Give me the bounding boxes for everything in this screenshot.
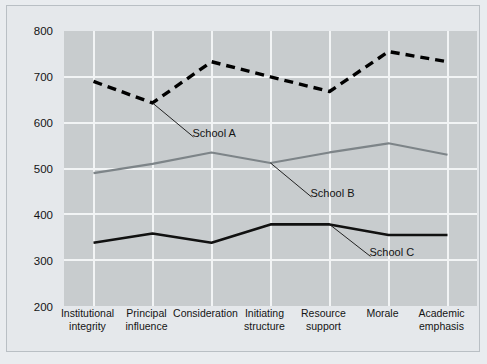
y-tick-label: 300 xyxy=(7,255,53,267)
annotation-leader-line xyxy=(153,103,194,137)
y-tick-label: 600 xyxy=(7,117,53,129)
y-tick-label: 200 xyxy=(7,301,53,313)
x-tick-label-line: emphasis xyxy=(403,320,481,333)
annotation-leader-lines xyxy=(64,31,477,306)
y-tick-label: 700 xyxy=(7,71,53,83)
y-tick-label: 800 xyxy=(7,25,53,37)
chart-frame: 800 700 600 500 400 300 200 Institutiona… xyxy=(6,5,480,352)
x-tick-label-line: Academic xyxy=(403,307,481,320)
y-tick-label: 500 xyxy=(7,163,53,175)
series-label-school-a: School A xyxy=(193,127,236,139)
chart-figure: 800 700 600 500 400 300 200 Institutiona… xyxy=(0,0,487,364)
plot-area xyxy=(64,31,477,306)
annotation-leader-line xyxy=(271,163,312,197)
series-label-school-b: School B xyxy=(311,187,355,199)
x-tick-label-line: support xyxy=(285,320,363,333)
y-tick-label: 400 xyxy=(7,209,53,221)
x-tick-label-line: influence xyxy=(108,320,186,333)
x-tick-label: Academicemphasis xyxy=(403,307,481,332)
series-label-school-c: School C xyxy=(370,246,415,258)
annotation-leader-line xyxy=(330,224,371,256)
